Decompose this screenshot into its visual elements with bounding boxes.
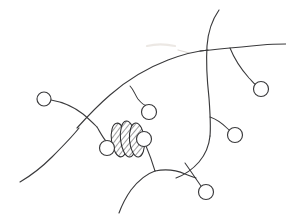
smudge-upper — [147, 45, 175, 47]
paper-smudge-group — [147, 45, 189, 54]
lower-left-process — [20, 128, 79, 182]
vesicle-right-terminal-circle — [137, 132, 152, 147]
terminal-circle-group — [37, 82, 269, 200]
left-terminal-circle — [37, 92, 51, 106]
bottom-terminal-circle — [199, 185, 214, 200]
bottom-process — [119, 171, 155, 213]
vesicle-stalk — [146, 146, 155, 171]
horizontal-fiber — [200, 44, 286, 51]
line-drawing — [0, 0, 286, 216]
vertical-axon — [207, 10, 219, 136]
vesicle-left-terminal-circle — [100, 141, 115, 156]
upper-mid-terminal-circle — [142, 105, 157, 120]
mid-right-terminal-circle — [228, 128, 243, 143]
upper-right-branch — [230, 48, 256, 85]
right-body-curve — [176, 136, 210, 178]
upper-mid-branch — [130, 86, 149, 106]
vesicle-left-stalk — [97, 127, 106, 141]
upper-right-terminal-circle — [254, 82, 269, 97]
diagram-canvas — [0, 0, 286, 216]
smudge-faint-right — [178, 50, 189, 53]
bottom-connector — [155, 170, 196, 178]
